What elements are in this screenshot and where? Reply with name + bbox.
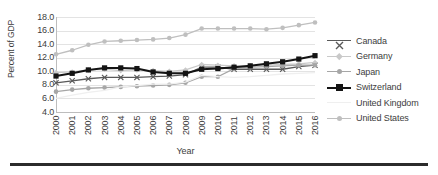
data-point (53, 73, 58, 78)
x-tick-label: 2002 (83, 116, 94, 144)
x-tick-label: 2007 (164, 116, 175, 144)
legend-marker-diamond-icon (336, 53, 342, 59)
x-tick-label: 2015 (294, 116, 305, 144)
legend-marker-circle-icon (337, 69, 342, 74)
legend-item-label: United States (356, 113, 409, 123)
data-point (86, 43, 91, 48)
data-point (54, 89, 59, 94)
x-tick-label: 2009 (197, 116, 208, 144)
data-point (280, 59, 285, 64)
legend-key-icon (327, 113, 351, 124)
data-point (70, 87, 75, 92)
data-point (313, 63, 318, 68)
data-point (134, 66, 139, 71)
data-point (248, 26, 253, 31)
data-point (199, 62, 205, 68)
legend-key-icon (327, 51, 351, 62)
data-point (86, 86, 91, 91)
chart-area: Percent of GDP 4.06.08.010.012.014.016.0… (0, 0, 325, 152)
data-point (102, 85, 107, 90)
data-point (264, 27, 269, 32)
legend-key-icon (327, 82, 351, 93)
legend-item-label: Germany (356, 51, 392, 61)
data-point (135, 38, 140, 43)
data-point (118, 38, 123, 43)
bottom-divider (10, 163, 428, 166)
x-axis-title: Year (56, 146, 315, 156)
series-united-states (54, 20, 318, 56)
legend-marker-square-icon (336, 84, 343, 91)
data-point (296, 56, 301, 61)
data-point (248, 63, 253, 68)
legend-key-icon (327, 66, 351, 77)
data-point (264, 61, 269, 66)
data-point (297, 63, 302, 68)
data-point (216, 26, 221, 31)
legend-item-united-states[interactable]: United States (327, 111, 435, 127)
x-tick-label: 2016 (310, 116, 321, 144)
legend-item-canada[interactable]: Canada (327, 33, 435, 49)
data-point (280, 26, 285, 31)
data-point (102, 65, 107, 70)
data-point (312, 53, 317, 58)
data-point (297, 23, 302, 28)
data-point (102, 39, 107, 44)
series-plot (0, 0, 325, 152)
x-tick-label: 2011 (229, 116, 240, 144)
x-tick-label: 2008 (181, 116, 192, 144)
x-tick-label: 2004 (116, 116, 127, 144)
data-point (86, 67, 91, 72)
chart-screenshot: Percent of GDP 4.06.08.010.012.014.016.0… (0, 0, 438, 175)
data-point (151, 37, 156, 42)
x-tick-label: 2014 (278, 116, 289, 144)
data-point (232, 26, 237, 31)
data-point (70, 71, 75, 76)
data-point (215, 66, 220, 71)
x-tick-label: 2013 (261, 116, 272, 144)
data-point (167, 83, 172, 88)
legend-item-japan[interactable]: Japan (327, 64, 435, 80)
data-point (70, 48, 75, 53)
series-line (56, 22, 315, 54)
legend-marker-circle-icon (337, 116, 342, 121)
x-tick-label: 2000 (51, 116, 62, 144)
data-point (118, 65, 123, 70)
legend-item-label: United Kingdom (356, 98, 419, 108)
chart-legend: CanadaGermanyJapanSwitzerlandUnited King… (327, 33, 435, 126)
legend-item-switzerland[interactable]: Switzerland (327, 80, 435, 96)
data-point (167, 36, 172, 41)
legend-marker-x-icon (335, 36, 344, 45)
series-united-kingdom (56, 73, 315, 99)
x-tick-label: 2010 (213, 116, 224, 144)
x-tick-label: 2012 (245, 116, 256, 144)
data-point (183, 71, 188, 76)
data-point (231, 65, 236, 70)
legend-item-label: Canada (356, 36, 387, 46)
legend-item-label: Japan (356, 67, 380, 77)
x-tick-label: 2005 (132, 116, 143, 144)
data-point (199, 67, 204, 72)
x-tick-label: 2003 (100, 116, 111, 144)
legend-key-icon (327, 35, 351, 46)
data-point (151, 69, 156, 74)
series-line (56, 73, 315, 99)
data-point (183, 32, 188, 37)
legend-item-united-kingdom[interactable]: United Kingdom (327, 95, 435, 111)
x-tick-label: 2001 (67, 116, 78, 144)
legend-item-label: Switzerland (356, 82, 401, 92)
data-point (313, 20, 318, 25)
data-point (54, 52, 59, 57)
legend-item-germany[interactable]: Germany (327, 49, 435, 65)
data-point (167, 71, 172, 76)
legend-key-icon (327, 97, 351, 108)
x-tick-label: 2006 (148, 116, 159, 144)
data-point (199, 26, 204, 31)
